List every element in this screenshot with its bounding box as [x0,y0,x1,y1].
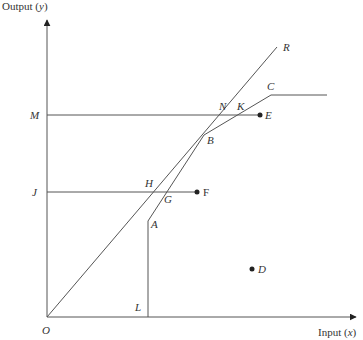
label-c: C [267,80,275,92]
label-m: M [29,109,40,121]
label-outputy: Output (y) [2,0,48,13]
labels-layer: Output (y)Input (x)OMJRCNKEBHGFADL [2,0,357,339]
label-g: G [164,193,172,205]
point-F-dot [195,190,200,195]
label-e: E [264,109,272,121]
label-d: D [257,263,266,275]
label-inputx: Input (x) [318,326,357,339]
label-f: F [203,186,209,198]
ray-OR-line [47,47,277,317]
label-a: A [150,218,158,230]
label-l: L [134,301,141,313]
label-j: J [32,186,38,198]
label-n: N [218,100,227,112]
label-k: K [236,100,245,112]
label-b: B [207,134,214,146]
label-h: H [144,177,154,189]
production-frontier-diagram: Output (y)Input (x)OMJRCNKEBHGFADL [0,0,363,340]
label-o: O [42,324,50,336]
frontier-LACplateau-line [148,95,327,317]
diagram-svg: Output (y)Input (x)OMJRCNKEBHGFADL [0,0,363,340]
lines-layer [47,47,327,317]
point-D-dot [250,267,255,272]
point-E-dot [258,113,263,118]
label-r: R [282,41,290,53]
